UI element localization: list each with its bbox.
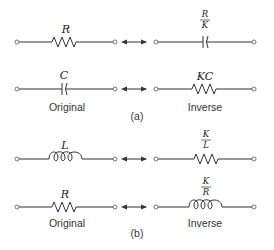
label-denominator: K: [201, 20, 209, 30]
b-row1-original-inductor: L: [15, 139, 117, 161]
part-b-label: (b): [131, 227, 144, 239]
a-row2-original-capacitor: C: [15, 69, 117, 95]
label-R: R: [61, 23, 70, 36]
a-row2-inverse-resistor: KC: [154, 70, 256, 94]
label-numerator: K: [202, 176, 210, 186]
a-row1-original-resistor: R: [15, 23, 117, 47]
inductor-icon: [49, 152, 82, 161]
part-a-label: (a): [131, 110, 144, 122]
network-inverse-diagram: R R K C KC Original Inverse (a): [0, 0, 274, 250]
resistor-icon: [52, 37, 76, 47]
caption-original: Original: [49, 217, 85, 229]
label-denominator: L: [202, 140, 209, 150]
b-row1-inverse-resistor: K L: [154, 129, 256, 164]
label-denominator: R: [202, 187, 210, 197]
a-row1-inverse-capacitor: R K: [154, 9, 256, 48]
label-C: C: [60, 69, 69, 82]
caption-inverse: Inverse: [188, 217, 223, 229]
inductor-icon: [189, 200, 222, 209]
resistor-icon: [194, 154, 218, 164]
label-numerator: R: [201, 9, 209, 19]
resistor-icon: [192, 84, 216, 94]
resistor-icon: [52, 202, 76, 212]
b-row2-original-resistor: R: [15, 188, 117, 212]
b-row2-inverse-inductor: K R: [154, 176, 256, 209]
caption-original: Original: [49, 101, 85, 113]
label-numerator: K: [202, 129, 210, 139]
label-R: R: [60, 188, 69, 201]
label-L: L: [60, 139, 68, 152]
label-KC: KC: [196, 70, 214, 83]
caption-inverse: Inverse: [188, 101, 223, 113]
